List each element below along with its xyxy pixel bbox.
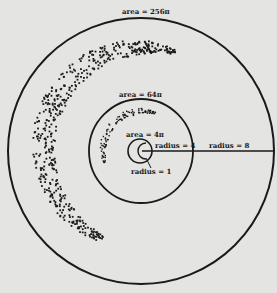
diagram-canvas: area = 256π area = 64π area = 4π radius … (0, 0, 277, 293)
inner-area-label: area = 4π (126, 130, 164, 139)
radius-1-label: radius = 1 (131, 167, 172, 176)
outer-area-label: area = 256π (122, 7, 170, 16)
concentric-circles-diagram: area = 256π area = 64π area = 4π radius … (0, 0, 277, 293)
radius-8-label: radius = 8 (209, 141, 250, 150)
middle-area-label: area = 64π (119, 90, 162, 99)
radius-4-label: radius = 4 (155, 141, 196, 150)
